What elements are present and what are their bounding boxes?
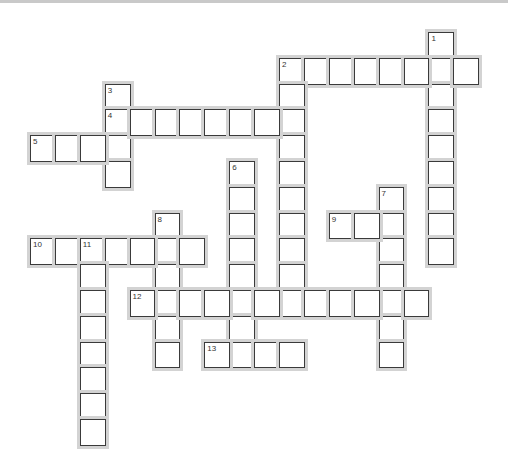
crossword-cell[interactable] xyxy=(379,213,405,240)
cell-input[interactable] xyxy=(429,214,453,239)
cell-input[interactable] xyxy=(180,110,204,135)
crossword-cell[interactable] xyxy=(80,419,106,446)
cell-input[interactable] xyxy=(330,59,354,84)
crossword-cell[interactable] xyxy=(254,109,280,136)
crossword-cell[interactable] xyxy=(404,290,430,317)
crossword-cell[interactable]: 3 xyxy=(105,84,131,111)
cell-input[interactable] xyxy=(56,136,80,161)
cell-input[interactable] xyxy=(380,188,404,213)
crossword-cell[interactable] xyxy=(80,290,106,317)
crossword-cell[interactable] xyxy=(379,316,405,343)
crossword-cell[interactable] xyxy=(55,238,81,265)
crossword-cell[interactable] xyxy=(428,84,454,111)
crossword-cell[interactable] xyxy=(354,290,380,317)
crossword-cell[interactable] xyxy=(279,264,305,291)
crossword-cell[interactable] xyxy=(279,187,305,214)
cell-input[interactable] xyxy=(106,136,130,161)
crossword-cell[interactable] xyxy=(279,238,305,265)
cell-input[interactable] xyxy=(31,136,55,161)
cell-input[interactable] xyxy=(380,265,404,290)
crossword-cell[interactable] xyxy=(105,238,131,265)
cell-input[interactable] xyxy=(81,136,105,161)
crossword-cell[interactable] xyxy=(379,342,405,369)
crossword-cell[interactable] xyxy=(155,316,181,343)
cell-input[interactable] xyxy=(255,291,279,316)
cell-input[interactable] xyxy=(230,343,254,368)
cell-input[interactable] xyxy=(405,291,429,316)
cell-input[interactable] xyxy=(156,265,180,290)
crossword-cell[interactable] xyxy=(130,109,156,136)
crossword-cell[interactable]: 2 xyxy=(279,58,305,85)
crossword-cell[interactable] xyxy=(155,109,181,136)
cell-input[interactable] xyxy=(156,110,180,135)
cell-input[interactable] xyxy=(81,265,105,290)
cell-input[interactable] xyxy=(156,214,180,239)
cell-input[interactable] xyxy=(280,214,304,239)
cell-input[interactable] xyxy=(230,188,254,213)
cell-input[interactable] xyxy=(205,291,229,316)
crossword-cell[interactable] xyxy=(155,342,181,369)
cell-input[interactable] xyxy=(131,110,155,135)
crossword-cell[interactable] xyxy=(80,316,106,343)
crossword-cell[interactable] xyxy=(279,109,305,136)
cell-input[interactable] xyxy=(355,214,379,239)
cell-input[interactable] xyxy=(205,110,229,135)
crossword-cell[interactable]: 11 xyxy=(80,238,106,265)
crossword-cell[interactable] xyxy=(279,290,305,317)
crossword-cell[interactable] xyxy=(279,161,305,188)
cell-input[interactable] xyxy=(280,110,304,135)
cell-input[interactable] xyxy=(380,59,404,84)
cell-input[interactable] xyxy=(380,214,404,239)
cell-input[interactable] xyxy=(156,291,180,316)
cell-input[interactable] xyxy=(81,317,105,342)
cell-input[interactable] xyxy=(230,317,254,342)
crossword-cell[interactable] xyxy=(354,58,380,85)
cell-input[interactable] xyxy=(330,214,354,239)
crossword-cell[interactable] xyxy=(229,109,255,136)
crossword-cell[interactable]: 10 xyxy=(30,238,56,265)
crossword-cell[interactable] xyxy=(379,58,405,85)
crossword-cell[interactable] xyxy=(279,84,305,111)
cell-input[interactable] xyxy=(380,291,404,316)
cell-input[interactable] xyxy=(81,343,105,368)
cell-input[interactable] xyxy=(454,59,478,84)
cell-input[interactable] xyxy=(280,85,304,110)
cell-input[interactable] xyxy=(56,239,80,264)
crossword-cell[interactable] xyxy=(179,290,205,317)
cell-input[interactable] xyxy=(429,85,453,110)
cell-input[interactable] xyxy=(81,420,105,445)
crossword-cell[interactable] xyxy=(329,290,355,317)
crossword-cell[interactable] xyxy=(80,264,106,291)
crossword-cell[interactable] xyxy=(229,316,255,343)
crossword-cell[interactable] xyxy=(404,58,430,85)
crossword-cell[interactable] xyxy=(428,213,454,240)
cell-input[interactable] xyxy=(180,291,204,316)
crossword-cell[interactable] xyxy=(254,290,280,317)
cell-input[interactable] xyxy=(230,265,254,290)
cell-input[interactable] xyxy=(429,136,453,161)
crossword-cell[interactable] xyxy=(428,187,454,214)
crossword-cell[interactable] xyxy=(229,213,255,240)
crossword-cell[interactable] xyxy=(453,58,479,85)
crossword-cell[interactable] xyxy=(354,213,380,240)
crossword-cell[interactable] xyxy=(80,393,106,420)
cell-input[interactable] xyxy=(429,110,453,135)
cell-input[interactable] xyxy=(106,85,130,110)
crossword-cell[interactable] xyxy=(155,264,181,291)
crossword-cell[interactable] xyxy=(130,238,156,265)
cell-input[interactable] xyxy=(81,394,105,419)
cell-input[interactable] xyxy=(330,291,354,316)
cell-input[interactable] xyxy=(305,59,329,84)
cell-input[interactable] xyxy=(380,239,404,264)
cell-input[interactable] xyxy=(280,343,304,368)
crossword-cell[interactable] xyxy=(229,187,255,214)
crossword-cell[interactable] xyxy=(179,109,205,136)
crossword-cell[interactable] xyxy=(379,290,405,317)
crossword-cell[interactable] xyxy=(105,135,131,162)
cell-input[interactable] xyxy=(156,343,180,368)
cell-input[interactable] xyxy=(255,110,279,135)
cell-input[interactable] xyxy=(255,343,279,368)
crossword-cell[interactable] xyxy=(279,135,305,162)
crossword-cell[interactable] xyxy=(428,109,454,136)
cell-input[interactable] xyxy=(429,188,453,213)
